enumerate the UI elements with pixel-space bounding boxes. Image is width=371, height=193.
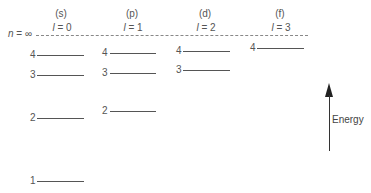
- level-4d-line: [183, 51, 230, 52]
- subshell-d-label: (d): [190, 8, 220, 19]
- l-value-d: l = 2: [186, 22, 226, 33]
- level-2s-line: [37, 118, 84, 119]
- level-4d-label: 4: [176, 46, 182, 56]
- level-3s-label: 3: [30, 70, 36, 80]
- level-4s-label: 4: [30, 50, 36, 60]
- ionization-limit-line: [36, 35, 308, 36]
- level-4f-label: 4: [250, 43, 256, 53]
- subshell-p-label: (p): [117, 8, 147, 19]
- level-3p-label: 3: [102, 68, 108, 78]
- level-4p-label: 4: [102, 48, 108, 58]
- level-3s-line: [37, 75, 84, 76]
- level-2p-line: [110, 111, 156, 112]
- energy-arrow-shaft: [329, 95, 330, 151]
- level-4s-line: [37, 55, 84, 56]
- l-value-s: l = 0: [42, 22, 82, 33]
- subshell-s-label: (s): [46, 8, 76, 19]
- l-value-p: l = 1: [113, 22, 153, 33]
- level-2s-label: 2: [30, 113, 36, 123]
- level-1s-label: 1: [30, 176, 36, 186]
- l-value-f: l = 3: [261, 22, 301, 33]
- level-3d-line: [183, 70, 230, 71]
- energy-axis-label: Energy: [332, 114, 364, 125]
- level-2p-label: 2: [102, 106, 108, 116]
- n-infinity-label: n = ∞: [8, 28, 32, 39]
- level-3p-line: [110, 73, 156, 74]
- subshell-f-label: (f): [265, 8, 295, 19]
- level-3d-label: 3: [176, 65, 182, 75]
- level-4f-line: [257, 48, 304, 49]
- level-1s-line: [37, 181, 84, 182]
- level-4p-line: [110, 53, 156, 54]
